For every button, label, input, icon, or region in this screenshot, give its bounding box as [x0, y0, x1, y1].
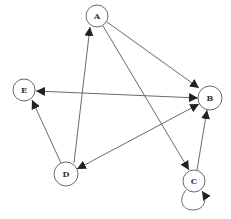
directed-graph: A B C D E [0, 0, 231, 219]
node-b[interactable]: B [198, 86, 222, 110]
edge-c-self-loop [182, 190, 205, 210]
nodes-layer: A B C D E [13, 5, 222, 192]
edge-e-b-bidirectional [36, 91, 198, 98]
edge-b-d-bidirectional [77, 104, 199, 169]
edge-d-to-a [74, 27, 90, 163]
node-e-label: E [21, 85, 27, 95]
node-a-label: A [93, 11, 101, 21]
node-d-label: D [63, 169, 70, 179]
node-b-label: B [207, 93, 214, 103]
edge-d-to-e [32, 100, 61, 163]
node-a[interactable]: A [86, 5, 108, 27]
node-c[interactable]: C [183, 170, 205, 192]
node-c-label: C [191, 176, 197, 186]
node-e[interactable]: E [13, 79, 35, 101]
node-d[interactable]: D [54, 162, 78, 186]
edge-c-to-b [197, 110, 207, 170]
